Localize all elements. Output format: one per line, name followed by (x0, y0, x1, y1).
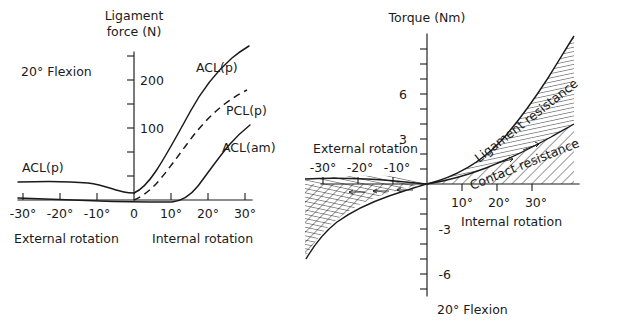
right-xtick-label-m20: -20° (347, 160, 374, 175)
right-y-ticks (420, 49, 427, 289)
left-internal-rotation-label: Internal rotation (152, 231, 253, 246)
left-flexion-note: 20° Flexion (21, 64, 92, 79)
curve-acl-p-external (18, 181, 134, 193)
curve-label-acl-p-right: ACL(p) (196, 60, 238, 75)
curve-label-pcl-p: PCL(p) (226, 103, 267, 118)
left-ytick-label-100: 100 (140, 121, 164, 136)
right-xtick-label-m10: -10° (384, 160, 411, 175)
left-xtick-label-m10: -10° (84, 206, 111, 221)
left-xtick-label-30: 30° (234, 206, 256, 221)
left-y-ticks (127, 56, 134, 176)
left-xtick-label-m20: -20° (47, 206, 74, 221)
left-yaxis-title-line2: force (N) (107, 24, 162, 39)
right-ytick-label-m3: -3 (439, 222, 451, 237)
left-xtick-label-m30: -30° (10, 206, 37, 221)
ligament-force-panel: Ligament force (N) 20° Flexion (0, 0, 309, 326)
figure-root: Ligament force (N) 20° Flexion (0, 0, 618, 326)
ligament-force-chart: Ligament force (N) 20° Flexion (0, 0, 309, 326)
curve-label-acl-am: ACL(am) (222, 140, 276, 155)
right-external-rotation-label: External rotation (313, 141, 418, 156)
right-internal-rotation-label: Internal rotation (461, 214, 562, 229)
right-ytick-label-6: 6 (399, 87, 407, 102)
torque-panel: Torque (Nm) (309, 0, 618, 326)
region-ligament-resistance-negative (305, 176, 427, 258)
left-yaxis-title-line1: Ligament (105, 8, 164, 23)
left-ytick-label-200: 200 (140, 73, 164, 88)
left-external-rotation-label: External rotation (14, 231, 119, 246)
right-ytick-label-m6: -6 (439, 267, 452, 282)
right-xtick-label-30: 30° (525, 195, 547, 210)
left-xtick-label-0: 0 (130, 206, 138, 221)
right-xtick-label-m30: -30° (310, 160, 337, 175)
left-xtick-label-10: 10° (160, 206, 182, 221)
left-xtick-label-20: 20° (197, 206, 219, 221)
right-yaxis-title: Torque (Nm) (388, 10, 466, 25)
right-flexion-note: 20° Flexion (437, 302, 508, 317)
curve-label-acl-p-left: ACL(p) (22, 160, 64, 175)
right-xtick-label-10: 10° (451, 195, 473, 210)
torque-chart: Torque (Nm) (309, 0, 618, 326)
right-xtick-label-20: 20° (488, 195, 510, 210)
